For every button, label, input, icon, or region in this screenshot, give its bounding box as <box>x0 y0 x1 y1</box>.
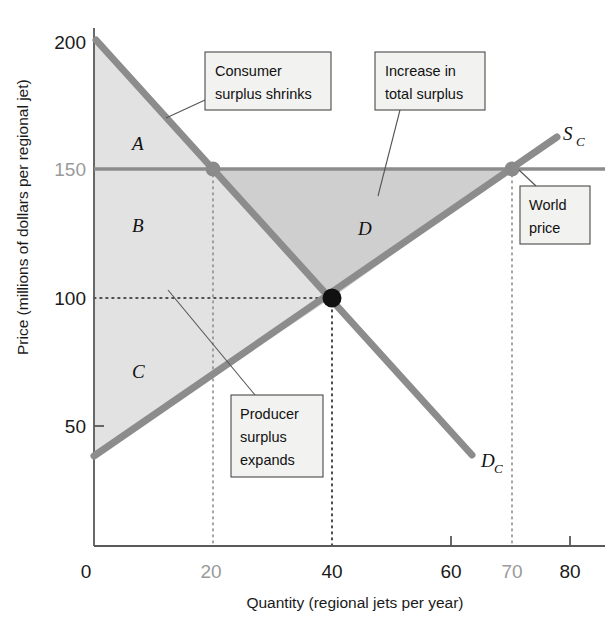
supply-curve-label-main: S <box>563 123 573 144</box>
leader-world-price <box>519 170 536 186</box>
callout-consumer-surplus-shrinks[interactable]: Consumer surplus shrinks <box>205 52 331 110</box>
region-label-a: A <box>130 133 144 154</box>
callout-world-price[interactable]: World price <box>520 186 590 244</box>
marker-demand-at-world-price[interactable] <box>206 162 221 177</box>
callout-producer-surplus-expands[interactable]: Producer surplus expands <box>231 395 323 477</box>
x-tick-label-60: 60 <box>440 561 461 582</box>
region-label-d: D <box>357 218 372 239</box>
demand-curve-label-main: D <box>480 450 495 471</box>
x-tick-labels: 0 20 40 60 70 80 <box>81 561 581 582</box>
supply-curve-label: S C <box>563 123 585 149</box>
x-tick-label-20: 20 <box>200 561 221 582</box>
supply-curve-label-sub: C <box>576 134 585 149</box>
y-tick-label-50: 50 <box>65 416 86 437</box>
callout-line-1: World <box>529 197 567 213</box>
callout-increase-in-total-surplus[interactable]: Increase in total surplus <box>375 52 485 110</box>
figure-container: A B C D S C D C 200 150 100 50 0 20 40 6… <box>0 0 615 626</box>
callout-line-1: Increase in <box>385 63 456 79</box>
x-axis-title: Quantity (regional jets per year) <box>246 594 463 611</box>
y-tick-label-150: 150 <box>54 159 86 180</box>
demand-curve-label-sub: C <box>494 461 503 476</box>
x-tick-label-0: 0 <box>81 561 92 582</box>
callout-line-2: surplus <box>240 429 287 445</box>
x-tick-label-40: 40 <box>321 561 342 582</box>
callout-line-2: surplus shrinks <box>215 86 312 102</box>
region-label-b: B <box>132 215 144 236</box>
economics-trade-surplus-chart: A B C D S C D C 200 150 100 50 0 20 40 6… <box>0 0 615 626</box>
callout-line-3: expands <box>240 452 295 468</box>
callout-line-1: Producer <box>240 406 299 422</box>
y-tick-label-200: 200 <box>54 32 86 53</box>
y-tick-labels: 200 150 100 50 <box>54 32 86 437</box>
region-label-c: C <box>132 361 145 382</box>
y-tick-label-100: 100 <box>54 288 86 309</box>
callout-line-2: price <box>529 220 560 236</box>
callout-line-2: total surplus <box>385 86 463 102</box>
x-tick-label-70: 70 <box>501 561 522 582</box>
x-tick-label-80: 80 <box>559 561 580 582</box>
callout-line-1: Consumer <box>215 63 282 79</box>
leader-consumer-surplus <box>166 100 205 118</box>
marker-equilibrium[interactable] <box>323 289 342 308</box>
marker-supply-at-world-price[interactable] <box>505 162 520 177</box>
y-axis-title: Price (millions of dollars per regional … <box>14 79 31 355</box>
demand-curve-label: D C <box>480 450 503 476</box>
